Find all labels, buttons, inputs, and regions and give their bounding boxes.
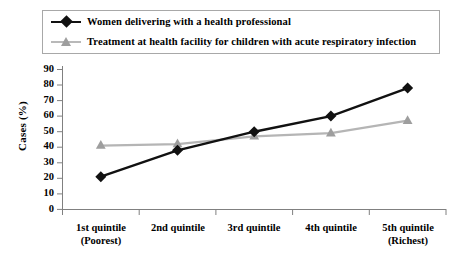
x-tick-line1: 5th quintile bbox=[361, 221, 455, 234]
x-tick-line2: (Poorest) bbox=[54, 234, 148, 247]
y-tick-label-50: 50 bbox=[28, 126, 54, 136]
y-tick-label-20: 20 bbox=[28, 172, 54, 182]
y-tick-label-60: 60 bbox=[28, 110, 54, 120]
chart-container: Women delivering with a health professio… bbox=[0, 0, 474, 265]
y-tick-label-10: 10 bbox=[28, 188, 54, 198]
data-point-marker bbox=[402, 83, 413, 94]
y-tick-label-90: 90 bbox=[28, 64, 54, 74]
y-tick-label-40: 40 bbox=[28, 141, 54, 151]
data-point-marker bbox=[325, 111, 336, 122]
x-tick-label-5th-quintile: 5th quintile (Richest) bbox=[361, 221, 455, 247]
y-tick-label-80: 80 bbox=[28, 79, 54, 89]
x-tick-line2: (Richest) bbox=[361, 234, 455, 247]
y-tick-label-70: 70 bbox=[28, 95, 54, 105]
y-tick-label-30: 30 bbox=[28, 157, 54, 167]
series-women-delivering bbox=[95, 83, 413, 183]
data-point-marker bbox=[95, 171, 106, 182]
data-point-marker bbox=[403, 115, 413, 124]
y-tick-marks bbox=[57, 70, 62, 210]
y-tick-label-0: 0 bbox=[28, 204, 54, 214]
y-axis-label: Cases (%) bbox=[16, 81, 28, 171]
